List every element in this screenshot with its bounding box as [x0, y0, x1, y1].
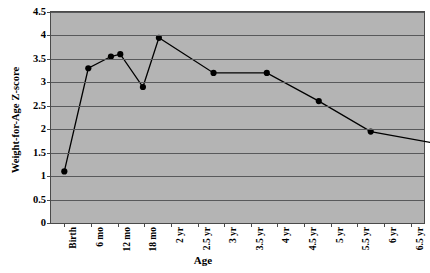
x-axis-tick-labels: Birth6 mo12 mo18 mo2 yr2.5 yr3 yr3.5 yr4…	[0, 0, 430, 273]
weight-for-age-z-score-chart: Weight-for-Age Z-score 00.511.522.533.54…	[0, 0, 430, 273]
x-axis-tick-label: 5 yr	[335, 227, 345, 243]
x-axis-tick-label: Birth	[68, 227, 78, 249]
x-axis-tick-label: 3.5 yr	[255, 227, 265, 250]
x-axis-tick-label: 3 yr	[228, 227, 238, 243]
x-axis-tick-label: 4 yr	[281, 227, 291, 243]
x-axis-title-text: Age	[194, 254, 212, 266]
x-axis-tick-label: 4.5 yr	[308, 227, 318, 250]
x-axis-tick-label: 12 mo	[122, 227, 132, 252]
x-axis-tick-label: 2 yr	[175, 227, 185, 243]
x-axis-tick-label: 6 yr	[388, 227, 398, 243]
x-axis-tick-label: 2.5 yr	[202, 227, 212, 250]
x-axis-tick-label: 6.5 yr	[415, 227, 425, 250]
x-axis-tick-label: 6 mo	[95, 227, 105, 247]
x-axis-tick-label: 5.5 yr	[361, 227, 371, 250]
x-axis-title: Age	[0, 254, 430, 266]
x-axis-tick-label: 18 mo	[148, 227, 158, 252]
